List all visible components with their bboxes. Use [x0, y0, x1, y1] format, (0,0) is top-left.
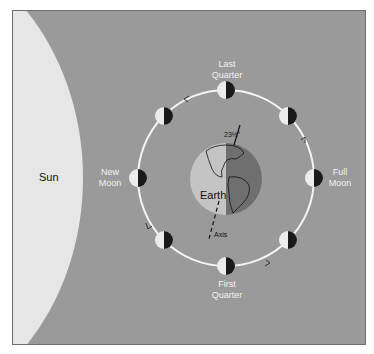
moon-waxing-gibbous: [279, 231, 297, 249]
moon-first-quarter: [217, 257, 235, 275]
axis-label: Axis: [214, 231, 227, 238]
orbit-arrow-icon: [265, 260, 270, 266]
first-quarter-label: First Quarter: [209, 279, 245, 301]
last-quarter-label: Last Quarter: [209, 59, 245, 81]
earth-shape: [190, 143, 262, 215]
diagram-frame: Sun Last Quarter First Quarter New Moon …: [12, 10, 366, 345]
tilt-label: 23½°: [224, 131, 240, 138]
moon-waxing-crescent: [155, 231, 173, 249]
moon-full: [305, 169, 323, 187]
full-moon-label: Full Moon: [325, 167, 355, 189]
moon-waning-gibbous: [279, 107, 297, 125]
sun-label: Sun: [39, 171, 59, 183]
moon-last-quarter: [217, 81, 235, 99]
earth-label: Earth: [200, 189, 226, 201]
moon-phase-diagram: [13, 11, 366, 345]
new-moon-label: New Moon: [95, 167, 125, 189]
moon-waning-crescent: [155, 107, 173, 125]
moon-new: [129, 169, 147, 187]
